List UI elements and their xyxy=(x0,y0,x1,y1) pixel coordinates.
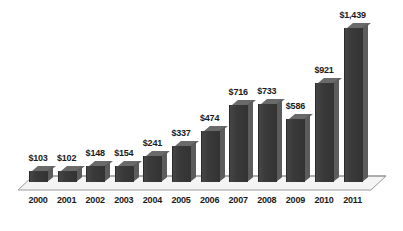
bar-front-face xyxy=(115,166,134,182)
bar-front-face xyxy=(29,171,48,182)
bar-value-label: $241 xyxy=(143,138,162,148)
bar-value-label: $474 xyxy=(200,113,219,123)
x-tick-label-2000: 2000 xyxy=(24,195,52,205)
bar-2008: $733 xyxy=(258,98,276,182)
bar-value-label: $716 xyxy=(229,87,248,97)
bar-chart: $1032000$1022001$1482002$1542003$2412004… xyxy=(0,0,403,231)
bar-2000: $103 xyxy=(29,165,47,182)
bar-value-label: $148 xyxy=(86,148,105,158)
bar-front-face xyxy=(86,166,105,182)
bar-2002: $148 xyxy=(86,160,104,182)
bar-value-label: $154 xyxy=(114,148,133,158)
x-tick-label-2011: 2011 xyxy=(339,195,367,205)
bar-front-face xyxy=(58,171,77,182)
x-tick-label-2003: 2003 xyxy=(110,195,138,205)
bar-2003: $154 xyxy=(115,160,133,182)
bar-value-label: $337 xyxy=(171,128,190,138)
bar-front-face xyxy=(258,104,277,182)
bar-front-face xyxy=(315,83,334,182)
x-tick-label-2004: 2004 xyxy=(138,195,166,205)
x-tick-label-2001: 2001 xyxy=(53,195,81,205)
bar-value-label: $921 xyxy=(314,65,333,75)
x-tick-label-2010: 2010 xyxy=(310,195,338,205)
x-tick-label-2005: 2005 xyxy=(167,195,195,205)
bar-front-face xyxy=(229,105,248,182)
x-tick-label-2008: 2008 xyxy=(253,195,281,205)
bar-2001: $102 xyxy=(58,165,76,182)
bar-2006: $474 xyxy=(201,125,219,182)
bar-value-label: $733 xyxy=(257,86,276,96)
x-tick-label-2002: 2002 xyxy=(81,195,109,205)
bar-value-label: $103 xyxy=(28,153,47,163)
x-tick-label-2007: 2007 xyxy=(224,195,252,205)
bar-front-face xyxy=(172,146,191,182)
bar-2007: $716 xyxy=(229,99,247,182)
bar-2004: $241 xyxy=(143,150,161,182)
bar-value-label: $586 xyxy=(286,101,305,111)
bar-2005: $337 xyxy=(172,140,190,182)
bar-2010: $921 xyxy=(315,77,333,182)
bar-value-label: $1,439 xyxy=(339,10,365,20)
bar-front-face xyxy=(201,131,220,182)
bar-front-face xyxy=(344,28,363,182)
bar-2009: $586 xyxy=(286,113,304,182)
bar-value-label: $102 xyxy=(57,153,76,163)
bar-front-face xyxy=(286,119,305,182)
bar-2011: $1,439 xyxy=(344,22,362,182)
x-tick-label-2009: 2009 xyxy=(281,195,309,205)
x-tick-label-2006: 2006 xyxy=(196,195,224,205)
plot-area: $1032000$1022001$1482002$1542003$2412004… xyxy=(0,0,403,231)
bar-front-face xyxy=(143,156,162,182)
